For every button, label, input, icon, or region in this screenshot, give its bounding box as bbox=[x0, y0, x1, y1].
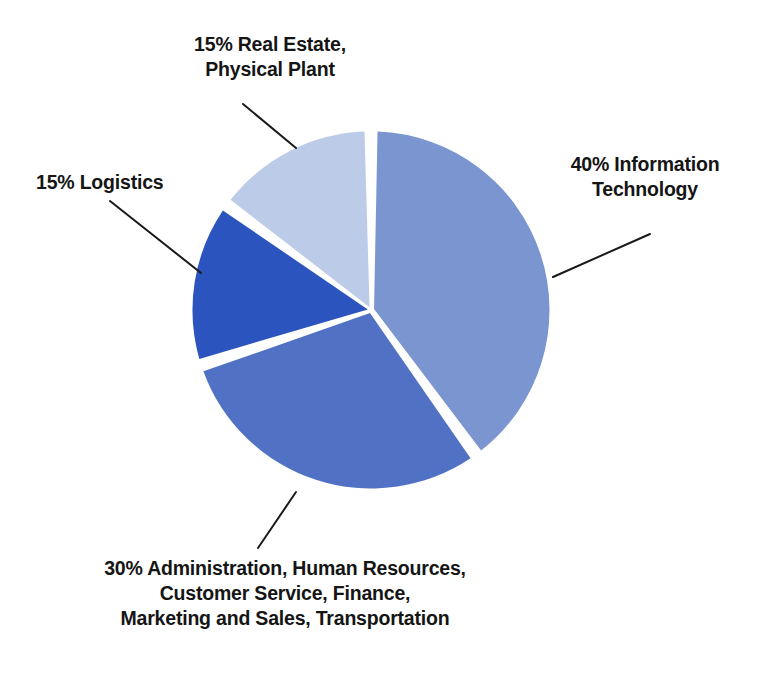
pie-label-information-technology: 40% Information Technology bbox=[528, 152, 762, 202]
pie-label-administration: 30% Administration, Human Resources, Cus… bbox=[60, 556, 510, 631]
pie-label-logistics: 15% Logistics bbox=[36, 170, 236, 195]
leader-line-real-estate bbox=[243, 104, 296, 148]
pie-chart-figure: 15% Real Estate, Physical Plant 15% Logi… bbox=[0, 0, 765, 680]
leader-line-logistics bbox=[110, 201, 201, 273]
leader-line-information-technology bbox=[553, 234, 650, 277]
leader-line-administration bbox=[258, 492, 296, 548]
pie-slices bbox=[192, 132, 549, 489]
pie-label-real-estate: 15% Real Estate, Physical Plant bbox=[150, 32, 390, 82]
